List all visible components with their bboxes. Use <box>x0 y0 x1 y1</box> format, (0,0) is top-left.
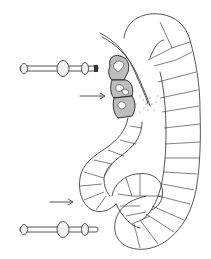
rod-upper <box>20 61 98 77</box>
rod-lower <box>20 222 98 238</box>
arrow-lower-icon <box>50 199 73 205</box>
illustration <box>0 0 211 259</box>
stippled-cell-cluster <box>109 55 159 118</box>
arrow-upper-icon <box>80 93 105 99</box>
segmented-tubule <box>80 14 201 250</box>
